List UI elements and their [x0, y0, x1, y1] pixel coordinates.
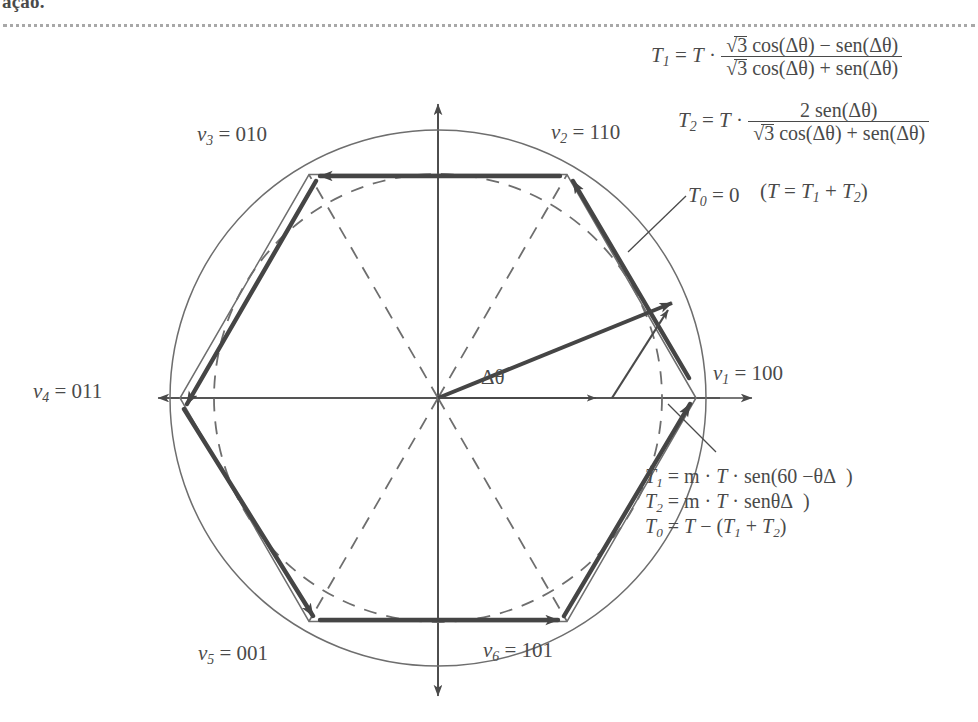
equation-t1-lower: T1 = m · T · sen(60 −θΔ )	[645, 466, 853, 491]
vector-label-v4: v4 = 011	[33, 381, 102, 405]
equation-t0-lower: T0 = T − (T1 + T2)	[645, 516, 853, 541]
reference-vector-group	[438, 303, 672, 398]
vector-label-v2: v2 = 110	[551, 122, 620, 146]
t-sum-annotation: (T = T1 + T2)	[760, 181, 868, 205]
vector-label-v1: v1 = 100	[713, 363, 783, 387]
axes-group	[158, 104, 752, 696]
equation-t2-top: T2 = T · 2 sen(Δθ) √3 cos(Δθ) + sen(Δθ)	[678, 101, 929, 144]
vector-label-v6: v6 = 101	[483, 640, 553, 664]
equation-t1-top: T1 = T · √3 cos(Δθ) − sen(Δθ) √3 cos(Δθ)…	[651, 36, 902, 79]
diagram-page: ação.	[0, 0, 978, 722]
equations-lower-block: T1 = m · T · sen(60 −θΔ ) T2 = m · T · s…	[645, 466, 853, 541]
equation-t2-lower: T2 = m · T · senθΔ )	[645, 491, 853, 516]
vector-label-v5: v5 = 001	[198, 643, 268, 667]
delta-theta-label: Δθ	[481, 367, 505, 388]
t0-zero-annotation: T0 = 0	[688, 185, 739, 209]
leader-lines	[628, 196, 716, 452]
vector-label-v3: v3 = 010	[197, 124, 267, 148]
reference-vector	[438, 303, 672, 398]
